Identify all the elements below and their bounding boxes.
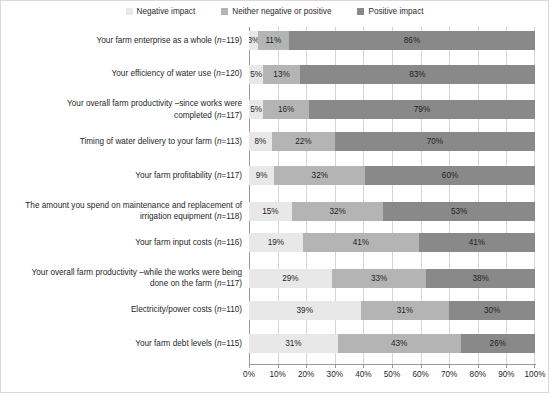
legend-item[interactable]: Positive impact [357, 7, 423, 16]
category-label-line: Your farm input costs (n=116) [1, 237, 242, 249]
stacked-bar: 9%32%60% [249, 166, 535, 185]
bar-segment-value: 31% [397, 306, 413, 315]
bar-segment[interactable]: 83% [300, 65, 535, 84]
bar-segment-value: 41% [469, 238, 485, 247]
bar-segment[interactable]: 5% [249, 100, 263, 119]
category-label-line: Timing of water delivery to your farm (n… [1, 136, 242, 148]
bar-segment[interactable]: 5% [249, 65, 263, 84]
chart-row: Your overall farm productivity –while th… [1, 267, 549, 290]
category-label-line: irrigation equipment (n=118) [1, 211, 242, 223]
bar-segment[interactable]: 41% [419, 233, 535, 252]
x-tick-label: 40% [355, 370, 371, 379]
bar-segment[interactable]: 31% [361, 301, 450, 320]
legend-item-label: Negative impact [137, 7, 196, 16]
x-tick-label: 70% [441, 370, 457, 379]
axis-tick [534, 364, 535, 368]
category-label-line: completed (n=117) [1, 110, 242, 122]
bar-segment[interactable]: 9% [249, 166, 274, 185]
bar-segment[interactable]: 26% [461, 334, 535, 353]
bar-segment[interactable]: 86% [289, 31, 535, 50]
category-label: Timing of water delivery to your farm (n… [1, 136, 249, 148]
legend-swatch-icon [221, 8, 228, 15]
category-label: The amount you spend on maintenance and … [1, 200, 249, 223]
bar-segment[interactable]: 41% [303, 233, 419, 252]
legend-swatch-icon [357, 8, 364, 15]
chart-row: The amount you spend on maintenance and … [1, 200, 549, 223]
bar-segment[interactable]: 32% [292, 202, 384, 221]
chart-row: Your farm input costs (n=116)19%41%41% [1, 233, 549, 252]
bar-segment[interactable]: 30% [449, 301, 535, 320]
bar-segment[interactable]: 60% [365, 166, 535, 185]
category-label: Your farm profitability (n=117) [1, 170, 249, 182]
axis-tick [478, 364, 479, 368]
chart-container: Negative impactNeither negative or posit… [0, 0, 549, 393]
axis-tick [506, 364, 507, 368]
bar-segment[interactable]: 3% [249, 31, 258, 50]
chart-row: Your overall farm productivity –since wo… [1, 98, 549, 121]
bar-segment-value: 43% [391, 339, 407, 348]
category-label: Electricity/power costs (n=110) [1, 304, 249, 316]
x-tick-label: 90% [498, 370, 514, 379]
bar-segment[interactable]: 16% [263, 100, 309, 119]
category-label-line: Your overall farm productivity –while th… [1, 267, 242, 279]
bar-segment[interactable]: 8% [249, 132, 272, 151]
bar-segment[interactable]: 22% [272, 132, 335, 151]
bar-segment-value: 19% [268, 238, 284, 247]
category-label-line: The amount you spend on maintenance and … [1, 200, 242, 212]
plot-area: Your farm enterprise as a whole (n=119)3… [1, 27, 549, 394]
x-tick-label: 100% [525, 370, 546, 379]
bar-segment-value: 32% [329, 207, 345, 216]
x-tick-label: 50% [384, 370, 400, 379]
category-label: Your overall farm productivity –since wo… [1, 98, 249, 121]
bar-segment[interactable]: 13% [263, 65, 300, 84]
bar-segment[interactable]: 15% [249, 202, 292, 221]
bar-segment[interactable]: 33% [332, 269, 426, 288]
legend-item-label: Positive impact [368, 7, 423, 16]
stacked-bar: 29%33%38% [249, 269, 535, 288]
category-label-line: Your efficiency of water use (n=120) [1, 68, 242, 80]
bar-segment-value: 26% [490, 339, 506, 348]
bar-segment[interactable]: 31% [249, 334, 338, 353]
bar-segment[interactable]: 38% [426, 269, 535, 288]
x-tick-label: 20% [298, 370, 314, 379]
bar-segment[interactable]: 32% [274, 166, 365, 185]
x-tick-label: 10% [269, 370, 285, 379]
bar-segment[interactable]: 29% [249, 269, 332, 288]
bar-segment-value: 30% [484, 306, 500, 315]
category-label-line: done on the farm (n=117) [1, 278, 242, 290]
stacked-bar: 19%41%41% [249, 233, 535, 252]
bar-segment-value: 38% [472, 274, 488, 283]
category-label-line: Your overall farm productivity –since wo… [1, 98, 242, 110]
axis-tick [306, 364, 307, 368]
category-label-line: Electricity/power costs (n=110) [1, 304, 242, 316]
chart-row: Your efficiency of water use (n=120)5%13… [1, 65, 549, 84]
bar-segment[interactable]: 39% [249, 301, 361, 320]
bar-segment[interactable]: 19% [249, 233, 303, 252]
legend-item[interactable]: Neither negative or positive [221, 7, 331, 16]
bar-segment-value: 16% [278, 105, 294, 114]
bar-segment[interactable]: 43% [338, 334, 461, 353]
axis-tick [363, 364, 364, 368]
bar-segment-value: 33% [371, 274, 387, 283]
bar-segment-value: 3% [249, 36, 258, 45]
bar-segment-value: 5% [250, 105, 262, 114]
x-axis-tick-labels: 0%10%20%30%40%50%60%70%80%90%100% [249, 370, 535, 384]
stacked-bar: 3%11%86% [249, 31, 535, 50]
chart-row: Electricity/power costs (n=110)39%31%30% [1, 301, 549, 320]
chart-row: Your farm debt levels (n=115)31%43%26% [1, 334, 549, 353]
category-label-line: Your farm debt levels (n=115) [1, 338, 242, 350]
legend-item-label: Neither negative or positive [232, 7, 331, 16]
stacked-bar: 8%22%70% [249, 132, 535, 151]
bar-segment[interactable]: 11% [258, 31, 289, 50]
bar-segment[interactable]: 70% [335, 132, 535, 151]
legend-item[interactable]: Negative impact [126, 7, 196, 16]
bar-segment-value: 5% [250, 70, 262, 79]
category-label: Your efficiency of water use (n=120) [1, 68, 249, 80]
x-tick-label: 0% [243, 370, 255, 379]
category-label: Your farm input costs (n=116) [1, 237, 249, 249]
bar-segment[interactable]: 53% [383, 202, 535, 221]
category-label-line: Your farm enterprise as a whole (n=119) [1, 35, 242, 47]
bar-segment[interactable]: 79% [309, 100, 535, 119]
bar-segment-value: 22% [295, 137, 311, 146]
category-label: Your farm enterprise as a whole (n=119) [1, 35, 249, 47]
